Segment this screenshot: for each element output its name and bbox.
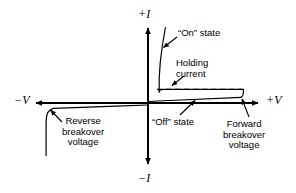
iv-curve-graphic <box>0 0 296 193</box>
thyristor-iv-characteristic-figure: +I −I +V −V “On” state Holding current “… <box>0 0 296 193</box>
annotation-forward-breakover-line3: voltage <box>223 140 265 151</box>
annotation-holding-current: Holding current <box>176 58 208 79</box>
reverse-blocking-branch <box>53 105 148 108</box>
reverse-breakover-leader-arrow <box>51 110 63 122</box>
annotation-off-state: “Off” state <box>152 117 194 128</box>
forward-breakover-transition <box>241 89 243 97</box>
annotation-holding-current-line1: Holding <box>176 58 208 69</box>
axis-label-positive-voltage: +V <box>266 94 282 106</box>
callout-arrows-group <box>51 37 250 122</box>
annotation-holding-current-line2: current <box>176 69 208 80</box>
annotation-reverse-breakover-line3: voltage <box>62 137 104 148</box>
annotation-on-state: “On” state <box>178 28 220 39</box>
axis-label-negative-voltage: −V <box>14 94 30 106</box>
on-state-rise <box>159 28 165 93</box>
annotation-reverse-breakover-line1: Reverse <box>62 116 104 127</box>
annotation-reverse-breakover-voltage: Reverse breakover voltage <box>62 116 104 148</box>
annotation-forward-breakover-line1: Forward <box>223 119 265 130</box>
annotation-forward-breakover-voltage: Forward breakover voltage <box>223 119 265 151</box>
on-state-leader-arrow <box>164 37 178 48</box>
axis-label-positive-current: +I <box>138 8 151 20</box>
reverse-breakover-branch <box>46 108 53 155</box>
axis-label-negative-current: −I <box>138 172 151 184</box>
forward-breakover-leader-arrow <box>242 99 249 117</box>
